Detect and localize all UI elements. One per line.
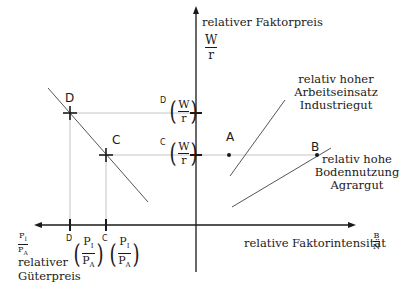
y-axis-arrow-icon — [193, 6, 199, 14]
x-axis-label: relative Faktorintensität — [244, 237, 386, 250]
y-axis-fraction: W r — [205, 34, 217, 61]
wr-C-label: C ( Wr ) — [168, 140, 200, 166]
x-axis-fraction: B N — [373, 232, 380, 251]
left-axis-fraction: PI PA — [18, 232, 28, 256]
industriegut-label: relativ hoher Arbeitseinsatz Industriegu… — [286, 73, 386, 112]
agrargut-label: relativ hohe Bodennutzung Agrargut — [312, 153, 402, 192]
p-C-label: C ( PI PA ) — [108, 236, 141, 271]
left-axis-label-line2: Güterpreis — [18, 270, 81, 283]
y-axis-label: relativer Faktorpreis — [202, 16, 323, 29]
industriegut-line — [230, 100, 285, 176]
left-axis-arrow-icon — [34, 222, 42, 228]
point-A-label: A — [226, 131, 234, 144]
p-D-label: D ( PI PA ) — [72, 236, 105, 271]
point-A-dot — [227, 153, 231, 157]
point-D-label: D — [65, 92, 74, 105]
left-axis-label-line1: relativer — [18, 256, 68, 269]
point-C-label: C — [112, 134, 120, 147]
wr-D-label: D ( Wr ) — [168, 98, 200, 124]
price-line — [48, 88, 148, 202]
x-axis-arrow-icon — [348, 222, 356, 228]
